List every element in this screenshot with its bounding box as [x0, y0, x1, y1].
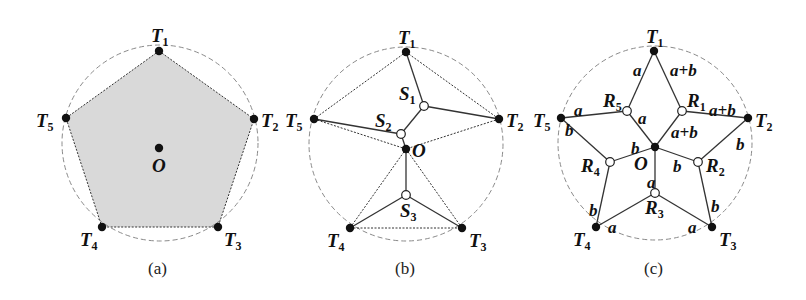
steiner-label-s3: S3: [400, 200, 417, 224]
terminal-node-t2: [250, 115, 258, 123]
figure-canvas: T1T2T3T4T5O (a) T1T2T3T4T5OS1S2S3 (b): [0, 0, 806, 300]
terminal-node-t4: [98, 223, 106, 231]
caption-c: (c): [644, 259, 663, 278]
terminal-label-t2: T2: [755, 110, 773, 134]
terminal-label-t4: T4: [327, 230, 345, 254]
terminal-label-t1: T1: [398, 27, 416, 51]
relay-node-r3: [651, 189, 660, 198]
edge-length-label: b: [711, 197, 720, 216]
terminal-node-t2: [495, 115, 503, 123]
relay-node-r4: [606, 158, 615, 167]
terminal-label-t3: T3: [224, 229, 242, 253]
steiner-node-s2: [397, 130, 406, 139]
terminal-label-t3: T3: [469, 230, 487, 254]
center-node-o: [155, 144, 163, 152]
terminal-label-t1: T1: [151, 25, 169, 49]
steiner-label-s2: S2: [375, 110, 392, 134]
terminal-label-t5: T5: [285, 110, 303, 134]
relay-label-r1: R1: [686, 90, 706, 114]
edge-length-label: b: [736, 135, 745, 154]
edge-length-label: a+b: [671, 123, 698, 142]
relay-node-r2: [694, 158, 703, 167]
terminal-label-t1: T1: [646, 26, 664, 50]
caption-a: (a): [148, 259, 167, 278]
relay-node-r5: [623, 107, 632, 116]
relay-label-r4: R4: [580, 155, 600, 179]
edge-length-label: b: [673, 157, 682, 176]
center-label-o: O: [412, 140, 426, 161]
edge-length-label: a+b: [709, 101, 736, 120]
relay-label-r5: R5: [602, 90, 622, 114]
terminal-node-t5: [557, 114, 565, 122]
center-label-o: O: [634, 153, 648, 174]
terminal-node-t3: [458, 224, 466, 232]
terminal-node-t4: [346, 224, 354, 232]
edge-length-label: b: [565, 121, 574, 140]
terminal-node-t5: [310, 115, 318, 123]
terminal-label-t2: T2: [261, 110, 279, 134]
edge-length-label: a+b: [670, 61, 697, 80]
caption-b: (b): [395, 259, 415, 278]
edge-length-label: a: [608, 218, 617, 237]
relay-label-r3: R3: [644, 197, 664, 221]
terminal-label-t5: T5: [533, 110, 551, 134]
terminal-label-t4: T4: [573, 229, 591, 253]
terminal-node-t4: [592, 223, 600, 231]
terminal-node-t2: [744, 114, 752, 122]
steiner-node-s3: [402, 191, 411, 200]
edge-length-label: b: [589, 201, 598, 220]
center-label-o: O: [152, 155, 166, 176]
panel-a: T1T2T3T4T5O (a): [36, 25, 279, 278]
edge-length-label: a: [638, 109, 647, 128]
relay-node-r1: [678, 107, 687, 116]
relay-label-r2: R2: [705, 155, 725, 179]
steiner-label-s1: S1: [399, 83, 416, 107]
terminal-node-t3: [708, 223, 716, 231]
terminal-label-t4: T4: [80, 229, 98, 253]
edge-length-label: a: [633, 61, 642, 80]
panel-b: T1T2T3T4T5OS1S2S3 (b): [285, 27, 524, 278]
edge-length-label: a: [688, 218, 697, 237]
steiner-node-s1: [420, 102, 429, 111]
terminal-node-t5: [62, 114, 70, 122]
center-node-o: [651, 143, 659, 151]
center-node-o: [402, 145, 410, 153]
shaded-pentagon: [66, 51, 254, 227]
terminal-node-t3: [214, 223, 222, 231]
edge-length-label: a: [574, 101, 583, 120]
panel-c: aa+baa+baa+bbbbbabbaa T1T2T3T4T5OR1R2R3R…: [533, 26, 773, 278]
terminal-label-t3: T3: [719, 229, 737, 253]
terminal-label-t2: T2: [506, 110, 524, 134]
terminal-label-t5: T5: [36, 110, 54, 134]
